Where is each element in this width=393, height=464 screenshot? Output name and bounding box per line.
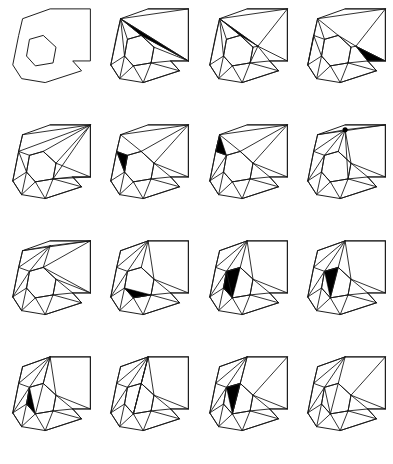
mesh-edge xyxy=(134,66,144,83)
mesh-edge xyxy=(134,182,144,199)
mesh-edge xyxy=(219,19,257,47)
mesh-edge xyxy=(53,293,73,295)
mesh-edge xyxy=(345,125,385,130)
mesh-edge xyxy=(56,395,73,409)
mesh-edge xyxy=(151,61,171,63)
mesh-edge xyxy=(154,163,188,177)
mesh-edge xyxy=(154,125,188,163)
panel-8 xyxy=(295,116,393,232)
panel-12 xyxy=(295,232,393,348)
mesh-edge xyxy=(154,395,188,409)
mesh-edge xyxy=(148,241,154,279)
hole-boundary xyxy=(321,383,350,413)
mesh-edge xyxy=(134,414,144,431)
mesh-edge xyxy=(351,163,385,177)
mesh-edge xyxy=(56,125,90,163)
mesh-edge xyxy=(340,295,348,315)
mesh-edge xyxy=(148,357,154,395)
mesh-edge xyxy=(356,9,385,46)
mesh-edge xyxy=(134,298,144,315)
mesh-edge xyxy=(348,177,368,179)
mesh-edge xyxy=(215,267,226,271)
mesh-edge xyxy=(242,63,250,83)
mesh-edge xyxy=(317,9,385,19)
mesh-edge xyxy=(257,46,269,61)
mesh-edge xyxy=(35,414,45,431)
mesh-edge xyxy=(351,395,368,409)
mesh-edge xyxy=(143,295,151,315)
mesh-edge xyxy=(247,241,253,279)
mesh-edge xyxy=(151,177,171,179)
mesh-edge xyxy=(121,135,142,152)
panel-10 xyxy=(98,232,196,348)
mesh-edge xyxy=(53,179,81,187)
mesh-drawing-14 xyxy=(98,348,196,464)
mesh-drawing-16 xyxy=(295,348,393,464)
mesh-edge xyxy=(151,63,179,71)
mesh-edge xyxy=(250,409,270,411)
mesh-edge xyxy=(151,293,171,295)
mesh-edge xyxy=(348,179,376,187)
mesh-edge xyxy=(253,279,287,293)
mesh-edge xyxy=(340,411,348,431)
mesh-edge xyxy=(348,409,368,411)
outer-boundary xyxy=(308,357,386,431)
mesh-edge xyxy=(141,241,148,268)
mesh-edge xyxy=(253,279,270,293)
mesh-drawing-12 xyxy=(295,232,393,348)
hole-boundary xyxy=(223,151,252,181)
mesh-edge xyxy=(257,9,286,46)
mesh-edge xyxy=(141,35,188,61)
mesh-edge xyxy=(121,19,189,61)
mesh-edge xyxy=(53,125,90,179)
mesh-edge xyxy=(253,125,287,163)
mesh-edge xyxy=(134,383,142,413)
mesh-edge xyxy=(45,295,53,315)
mesh-edge xyxy=(250,179,278,187)
mesh-edge xyxy=(330,383,338,413)
mesh-edge xyxy=(232,298,242,315)
outer-boundary xyxy=(13,125,91,199)
mesh-edge xyxy=(23,125,91,135)
mesh-edge xyxy=(154,163,171,177)
mesh-edge xyxy=(56,163,90,177)
panel-9 xyxy=(0,232,98,348)
mesh-edge xyxy=(154,279,188,293)
mesh-edge xyxy=(253,395,287,409)
mesh-edge xyxy=(351,279,385,293)
panel-5 xyxy=(0,116,98,232)
mesh-drawing-15 xyxy=(197,348,295,464)
hole-boundary xyxy=(27,151,56,181)
outer-boundary xyxy=(209,357,287,431)
mesh-edge xyxy=(242,295,250,315)
mesh-edge xyxy=(348,295,376,303)
mesh-edge xyxy=(250,61,270,63)
mesh-edge xyxy=(348,63,376,71)
panel-14 xyxy=(98,348,196,464)
mesh-edge xyxy=(121,125,189,135)
mesh-drawing-6 xyxy=(98,116,196,232)
panel-16 xyxy=(295,348,393,464)
mesh-edge xyxy=(35,182,45,199)
mesh-edge xyxy=(53,295,81,303)
mesh-drawing-3 xyxy=(197,0,295,116)
mesh-edge xyxy=(250,63,278,71)
mesh-edge xyxy=(43,241,90,268)
mesh-edge xyxy=(351,395,385,409)
mesh-edge xyxy=(330,66,340,83)
panel-3 xyxy=(197,0,295,116)
panel-11 xyxy=(197,232,295,348)
mesh-edge xyxy=(250,411,278,419)
inserted-vertex-marker xyxy=(342,127,347,132)
mesh-edge xyxy=(240,125,287,152)
mesh-edge xyxy=(351,357,385,395)
mesh-drawing-13 xyxy=(0,348,98,464)
panel-15 xyxy=(197,348,295,464)
mesh-drawing-10 xyxy=(98,232,196,348)
mesh-drawing-4 xyxy=(295,0,393,116)
mesh-edge xyxy=(330,182,340,199)
outer-boundary xyxy=(13,9,91,83)
mesh-edge xyxy=(53,411,81,419)
mesh-edge xyxy=(313,35,321,56)
mesh-drawing-2 xyxy=(98,0,196,116)
